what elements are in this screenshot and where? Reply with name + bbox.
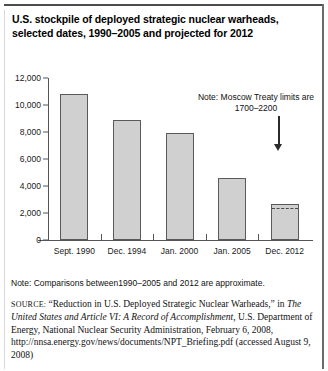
figure-source: SOURCE: “Reduction in U.S. Deployed Stra… <box>11 298 317 361</box>
annotation-text: Note: Moscow Treaty limits are 1700–2200 <box>198 92 314 113</box>
figure-container: U.S. stockpile of deployed strategic nuc… <box>0 0 328 371</box>
moscow-treaty-annotation: Note: Moscow Treaty limits are 1700–2200 <box>196 92 316 114</box>
y-axis-tick-mark <box>43 186 48 187</box>
annotation-arrow-shaft <box>278 116 280 146</box>
x-axis-tick-label: Jan. 2000 <box>161 246 198 256</box>
x-axis-tick-label: Dec. 1994 <box>108 246 147 256</box>
y-axis-tick-mark <box>43 159 48 160</box>
y-axis-tick-mark <box>43 78 48 79</box>
x-axis-separator-tick <box>101 234 102 240</box>
x-axis-separator-tick <box>258 234 259 240</box>
source-label: SOURCE: <box>11 300 46 309</box>
y-axis-tick-mark <box>43 213 48 214</box>
bar <box>271 204 299 240</box>
bar <box>166 133 194 240</box>
top-rule <box>4 4 322 6</box>
x-axis-tick-label: Dec. 2012 <box>265 246 304 256</box>
annotation-arrow-head <box>274 144 282 151</box>
y-axis-tick-mark <box>43 132 48 133</box>
figure-note: Note: Comparisons between1990–2005 and 2… <box>11 278 317 289</box>
x-axis-separator-tick <box>153 234 154 240</box>
figure-title: U.S. stockpile of deployed strategic nuc… <box>12 13 312 40</box>
bar <box>60 94 88 240</box>
treaty-limit-reference-line <box>272 208 298 209</box>
y-axis-tick-mark <box>43 240 48 241</box>
source-part1: “Reduction in U.S. Deployed Strategic Nu… <box>49 299 285 309</box>
x-axis-tick-label: Sept. 1990 <box>54 246 95 256</box>
x-axis-tick-label: Jan. 2005 <box>213 246 250 256</box>
x-axis-separator-tick <box>206 234 207 240</box>
bar <box>113 120 141 240</box>
bar <box>218 178 246 240</box>
y-axis-tick-mark <box>43 105 48 106</box>
x-axis-line <box>38 240 313 241</box>
